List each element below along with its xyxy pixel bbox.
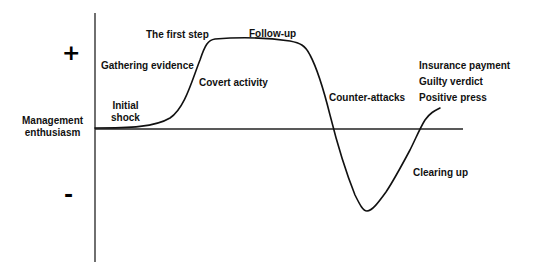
label-covert-activity: Covert activity	[199, 77, 268, 89]
label-counter-attacks: Counter-attacks	[329, 92, 405, 104]
negative-sign: -	[64, 182, 73, 207]
label-insurance-payment: Insurance payment	[419, 60, 510, 72]
initial-shock-line-1: Initial	[111, 100, 140, 112]
label-follow-up: Follow-up	[249, 28, 296, 40]
label-initial-shock: Initial shock	[111, 100, 140, 124]
y-axis-label: Management enthusiasm	[22, 115, 83, 139]
positive-sign: +	[62, 40, 80, 65]
y-axis-label-line-1: Management	[22, 115, 83, 127]
label-guilty-verdict: Guilty verdict	[419, 76, 483, 88]
label-clearing-up: Clearing up	[413, 167, 468, 179]
label-gathering-evidence: Gathering evidence	[101, 60, 194, 72]
y-axis-label-line-2: enthusiasm	[22, 127, 83, 139]
initial-shock-line-2: shock	[111, 112, 140, 124]
label-first-step: The first step	[146, 29, 209, 41]
label-positive-press: Positive press	[419, 92, 487, 104]
